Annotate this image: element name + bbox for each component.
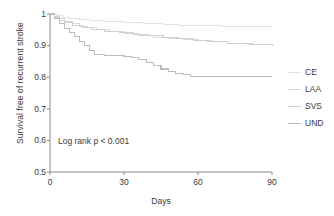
legend-swatch-svs — [288, 106, 301, 107]
legend-label-laa: LAA — [305, 85, 321, 94]
axis-lines — [50, 14, 272, 172]
series-lines — [50, 14, 272, 77]
series-line-ce — [50, 14, 272, 27]
legend-item-ce[interactable]: CE — [288, 64, 334, 81]
legend-item-laa[interactable]: LAA — [288, 81, 334, 98]
axis-ticks — [47, 14, 272, 175]
survival-chart-figure: Survival free of recurrent stroke 1 0.9 … — [0, 0, 334, 216]
legend-item-svs[interactable]: SVS — [288, 98, 334, 115]
chart-legend: CE LAA SVS UND — [288, 64, 334, 132]
legend-label-svs: SVS — [305, 102, 322, 111]
legend-label-ce: CE — [305, 68, 317, 77]
legend-item-und[interactable]: UND — [288, 115, 334, 132]
plot-canvas — [0, 0, 334, 216]
legend-swatch-laa — [288, 89, 301, 90]
legend-swatch-und — [288, 123, 301, 124]
legend-label-und: UND — [305, 119, 323, 128]
legend-swatch-ce — [288, 72, 301, 73]
